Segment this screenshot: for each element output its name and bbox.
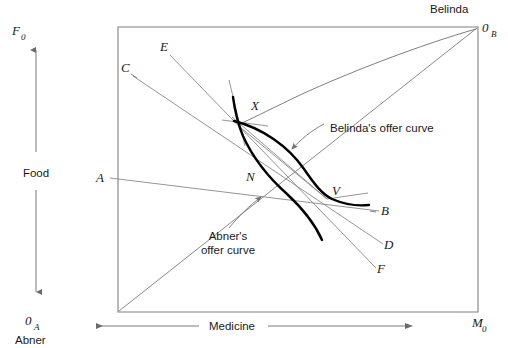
- origin-a-subscript: A: [33, 322, 40, 332]
- label-e: E: [159, 39, 168, 54]
- corner-label-top-left: F 0: [11, 23, 26, 42]
- medicine-axis: Medicine: [96, 320, 406, 332]
- belinda-offer-curve-tail: [242, 29, 476, 123]
- abner-offer-curve-label-line1: Abner's: [209, 230, 248, 242]
- corner-label-bottom-right: M 0: [471, 315, 487, 334]
- edgeworth-box-figure: X N V A B C D E F Belinda's offer curve …: [0, 0, 508, 348]
- belinda-offer-curve-label: Belinda's offer curve: [330, 122, 434, 134]
- belinda-party-label: Belinda: [430, 3, 469, 15]
- label-f: F: [376, 261, 386, 276]
- origin-a-label: 0: [25, 313, 32, 328]
- point-n: N: [245, 169, 256, 184]
- food-axis-label: Food: [23, 167, 49, 179]
- abner-party-label: Abner: [15, 334, 46, 346]
- tangent-segments-at-x: [222, 80, 268, 146]
- label-d: D: [383, 237, 394, 252]
- diagonal-origin-line: [119, 28, 477, 311]
- label-c: C: [121, 60, 130, 75]
- label-b: B: [381, 203, 389, 218]
- price-line-ef: [170, 55, 376, 268]
- label-a: A: [95, 170, 104, 185]
- point-x: X: [250, 98, 260, 113]
- corner-label-top-right: Belinda 0 B: [430, 3, 497, 39]
- medicine-axis-label: Medicine: [209, 320, 255, 332]
- food-zero-subscript: 0: [21, 32, 26, 42]
- abner-offer-curve-label-line2: offer curve: [201, 244, 255, 256]
- point-x-label: X: [250, 98, 260, 113]
- corner-label-bottom-left: 0 A Abner: [15, 313, 46, 346]
- medicine-zero-subscript: 0: [482, 324, 487, 334]
- point-n-label: N: [245, 169, 256, 184]
- food-axis: Food: [23, 50, 49, 292]
- food-zero-label: F: [11, 23, 21, 38]
- origin-b-label: 0: [482, 20, 489, 35]
- point-v-label: V: [332, 183, 342, 198]
- point-v: V: [332, 183, 342, 198]
- annotation-belinda-offer-curve: Belinda's offer curve: [292, 122, 434, 149]
- origin-b-subscript: B: [491, 29, 497, 39]
